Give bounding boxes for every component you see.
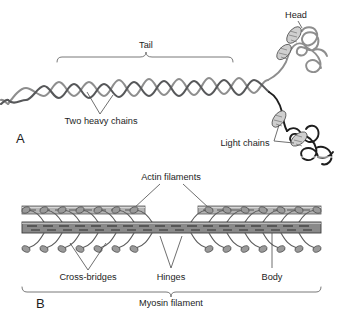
head-label: Head — [285, 10, 307, 20]
tail-label: Tail — [139, 40, 153, 50]
heavy-chains-label: Two heavy chains — [64, 116, 137, 126]
body-label: Body — [262, 272, 283, 282]
actin-filaments-label: Actin filaments — [141, 172, 201, 182]
myosin-diagram: Tail — [0, 0, 343, 316]
light-chains-label: Light chains — [220, 138, 269, 148]
cross-bridges-label: Cross-bridges — [59, 272, 117, 282]
panel-b-letter: B — [36, 296, 45, 311]
panel-a-letter: A — [16, 131, 25, 146]
myosin-filament-body — [22, 222, 321, 233]
hinges-label: Hinges — [157, 272, 186, 282]
myosin-filament-label: Myosin filament — [139, 298, 203, 308]
